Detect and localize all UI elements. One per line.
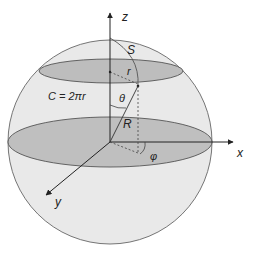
sphere-diagram: z x y S r C = 2πr θ R φ [0,0,256,256]
y-axis-label: y [54,195,62,209]
latitude-disk [39,59,183,83]
radius-label: R [123,117,132,131]
latitude-center-dot [109,71,111,73]
phi-label: φ [150,150,157,162]
sphere-svg: z x y S r C = 2πr θ R φ [0,0,256,256]
circumference-label: C = 2πr [48,90,87,102]
arc-label: S [127,43,135,57]
x-axis-label: x [236,146,244,160]
theta-label: θ [119,92,125,104]
z-axis-label: z [121,10,128,24]
